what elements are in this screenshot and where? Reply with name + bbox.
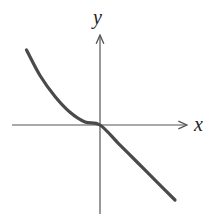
x-axis-label: x <box>193 113 203 135</box>
y-axis-label: y <box>91 6 102 29</box>
function-graph: x y <box>0 0 219 222</box>
